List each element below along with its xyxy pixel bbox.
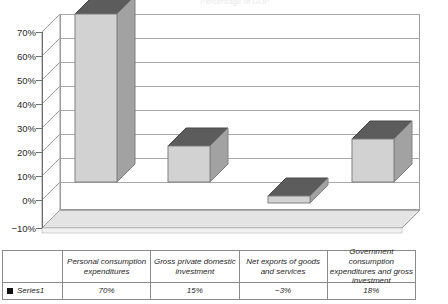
bar-gross-private-investment[interactable]: [168, 128, 228, 182]
category-header-2: Net exports of goods and services: [240, 251, 328, 282]
bar-group: [0, 0, 448, 250]
value-cell-2: −3%: [240, 283, 328, 299]
category-header-1: Gross private domestic investment: [151, 251, 239, 282]
bar-personal-consumption[interactable]: [75, 0, 135, 182]
category-header-0: Personal consumption expenditures: [63, 251, 151, 282]
legend-label: Series1: [17, 286, 44, 296]
bar-government-consumption[interactable]: [352, 121, 412, 182]
value-cell-1: 15%: [151, 283, 239, 299]
category-header-3: Government consumption expenditures and …: [328, 251, 415, 282]
chart-3d-column: 70% 60% 50% 40% 30% 20% 10% 0% −10%: [0, 0, 448, 250]
value-cell-0: 70%: [63, 283, 151, 299]
legend-entry-series1[interactable]: Series1: [3, 283, 63, 299]
chart-screenshot: Percentage of GDP: [0, 0, 448, 304]
value-cell-3: 18%: [328, 283, 415, 299]
table-corner-cell: [3, 251, 63, 282]
chart-data-table: Personal consumption expenditures Gross …: [2, 250, 416, 300]
legend-swatch-icon: [7, 288, 13, 294]
table-header-row: Personal consumption expenditures Gross …: [3, 251, 415, 283]
table-series-row: Series1 70% 15% −3% 18%: [3, 283, 415, 299]
bar-net-exports[interactable]: [268, 178, 328, 203]
